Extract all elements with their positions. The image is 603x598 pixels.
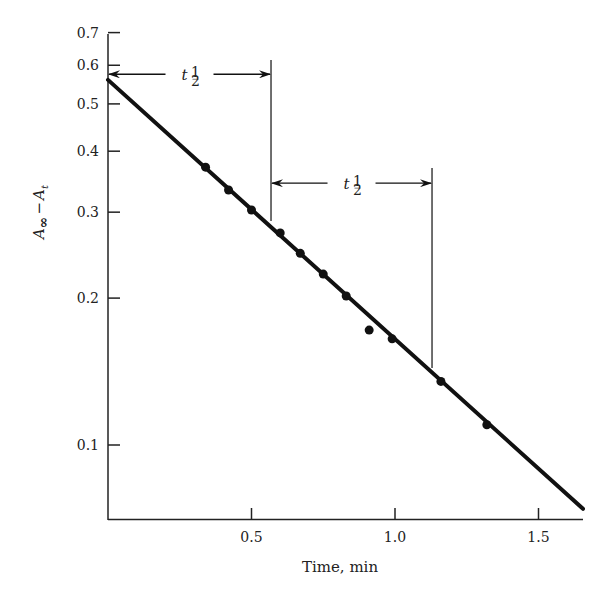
half-life-label: t [344, 175, 351, 193]
y-tick-label: 0.7 [77, 25, 99, 41]
data-point [388, 334, 397, 343]
data-point [201, 163, 210, 172]
half-life-subscript-den: 2 [353, 182, 362, 198]
y-axis-label: A∞−At [30, 184, 51, 241]
y-tick-label: 0.1 [77, 437, 99, 453]
y-tick-label: 0.6 [77, 57, 99, 73]
y-tick-label: 0.5 [77, 96, 99, 112]
x-tick-label: 1.5 [527, 529, 549, 545]
svg-text:A∞−At: A∞−At [30, 184, 51, 241]
y-tick-label: 0.4 [77, 143, 99, 159]
data-point [365, 326, 374, 335]
x-axis: 0.51.01.5 [108, 508, 583, 545]
data-point [276, 228, 285, 237]
y-tick-label: 0.3 [77, 204, 99, 220]
data-point [247, 206, 256, 215]
data-point [342, 291, 351, 300]
x-tick-label: 1.0 [384, 529, 406, 545]
half-life-annotations: t12t12 [109, 60, 432, 368]
data-point [482, 420, 491, 429]
half-life-chart: 0.10.20.30.40.50.60.7 0.51.01.5 Time, mi… [0, 0, 603, 598]
half-life-subscript-den: 2 [191, 73, 200, 89]
y-ticks: 0.10.20.30.40.50.60.7 [77, 25, 120, 453]
y-axis: 0.10.20.30.40.50.60.7 [77, 25, 120, 520]
data-point [224, 186, 233, 195]
x-tick-label: 0.5 [240, 529, 262, 545]
y-tick-label: 0.2 [77, 290, 99, 306]
figure-caption-cutoff [0, 586, 603, 598]
x-ticks: 0.51.01.5 [240, 508, 549, 545]
half-life-label: t [182, 66, 189, 84]
x-axis-label: Time, min [302, 558, 378, 576]
data-point [319, 270, 328, 279]
data-point [436, 377, 445, 386]
data-point [296, 249, 305, 258]
